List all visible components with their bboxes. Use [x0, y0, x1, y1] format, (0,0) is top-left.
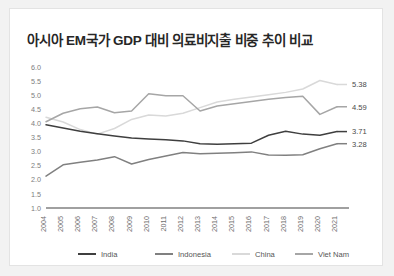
y-axis: 6.05.55.04.54.03.53.02.52.01.51.0 — [31, 63, 41, 213]
x-tick-label: 2007 — [90, 216, 99, 232]
legend-label-viet-nam[interactable]: Viet Nam — [318, 250, 349, 259]
x-tick-label: 2004 — [39, 216, 48, 232]
x-tick-label: 2016 — [244, 216, 253, 232]
series-lines — [46, 81, 337, 177]
x-tick-label: 2011 — [159, 216, 168, 231]
y-tick-label: 2.0 — [31, 175, 41, 184]
end-value-labels: 5.384.593.713.28 — [337, 80, 367, 148]
chart-legend[interactable]: IndiaIndonesiaChinaViet Nam — [78, 250, 349, 259]
series-line-indonesia — [46, 144, 337, 176]
series-line-india — [46, 125, 337, 144]
x-tick-label: 2005 — [56, 216, 65, 232]
y-tick-label: 5.0 — [31, 91, 41, 100]
x-tick-label: 2017 — [262, 216, 271, 232]
line-chart: 6.05.55.04.54.03.53.02.52.01.51.0 200420… — [10, 9, 384, 267]
x-tick-label: 2012 — [176, 216, 185, 232]
x-tick-label: 2013 — [193, 216, 202, 232]
legend-label-india[interactable]: India — [101, 250, 118, 259]
y-tick-label: 1.0 — [31, 204, 41, 213]
end-value-label: 5.38 — [352, 80, 367, 89]
x-tick-label: 2010 — [142, 216, 151, 232]
end-value-label: 4.59 — [352, 103, 367, 112]
legend-label-indonesia[interactable]: Indonesia — [178, 250, 212, 259]
end-value-label: 3.71 — [352, 127, 367, 136]
x-tick-label: 2021 — [330, 216, 339, 232]
x-axis: 2004200520062007200820092010201120122013… — [39, 216, 339, 232]
x-tick-label: 2019 — [296, 216, 305, 232]
y-tick-label: 4.5 — [31, 105, 41, 114]
end-value-label: 3.28 — [352, 140, 367, 149]
x-tick-label: 2018 — [279, 216, 288, 232]
y-tick-label: 2.5 — [31, 161, 41, 170]
series-line-viet-nam — [46, 94, 337, 122]
x-tick-label: 2006 — [73, 216, 82, 232]
legend-label-china[interactable]: China — [255, 250, 276, 259]
x-tick-label: 2009 — [125, 216, 134, 232]
y-tick-label: 3.5 — [31, 133, 41, 142]
x-tick-label: 2015 — [227, 216, 236, 232]
y-tick-label: 5.5 — [31, 77, 41, 86]
chart-plot-area: 6.05.55.04.54.03.53.02.52.01.51.0 200420… — [10, 9, 384, 267]
chart-card: 아시아 EM국가 GDP 대비 의료비지출 비중 추이 비교 6.05.55.0… — [9, 8, 383, 266]
x-tick-label: 2020 — [313, 216, 322, 232]
y-tick-label: 6.0 — [31, 63, 41, 72]
y-tick-label: 1.5 — [31, 190, 41, 199]
y-tick-label: 4.0 — [31, 119, 41, 128]
x-tick-label: 2008 — [107, 216, 116, 232]
y-tick-label: 3.0 — [31, 147, 41, 156]
x-tick-label: 2014 — [210, 216, 219, 232]
